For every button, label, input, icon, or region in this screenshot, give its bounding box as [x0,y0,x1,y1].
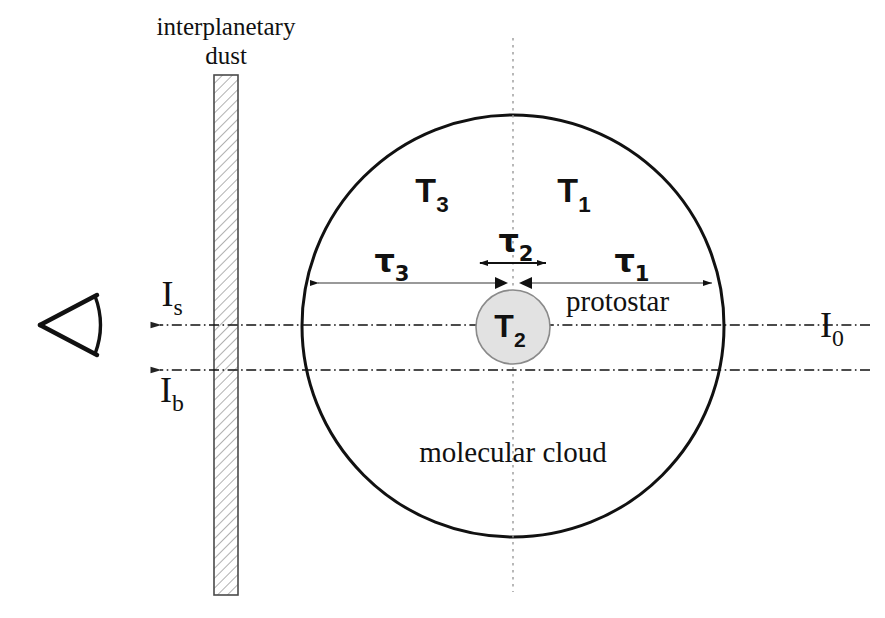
optical-depth-label-tau1: τ1 [614,242,649,286]
optical-depth-tau2-subscript: 2 [519,241,534,266]
optical-depth-tau1-subscript: 1 [635,261,650,286]
intensity-label-ib: Ib [160,370,184,416]
interplanetary-dust-label-line2: dust [205,42,247,69]
temperature-t2-base: T [494,308,514,344]
intensity-label-is: Is [161,274,182,320]
intensity-label-i0: I0 [820,305,844,351]
astronomy-diagram: interplanetary dust molecular cloud prot… [0,0,885,618]
temperature-t1-subscript: 1 [578,192,590,217]
intensity-is-base: I [161,274,173,314]
temperature-t3-subscript: 3 [436,192,448,217]
optical-depth-label-tau2: τ2 [498,222,533,266]
figure-canvas: interplanetary dust molecular cloud prot… [0,0,885,618]
intensity-i0-base: I [820,305,832,345]
molecular-cloud-label: molecular cloud [419,436,607,468]
temperature-label-t3: T3 [415,171,448,217]
optical-depth-tau1-base: τ [614,242,634,280]
temperature-t1-base: T [557,171,578,209]
tau-3-measure-line [318,277,508,289]
intensity-ib-subscript: b [172,390,184,416]
optical-depth-label-tau3: τ3 [374,242,409,286]
intensity-i0-subscript: 0 [832,325,844,351]
interplanetary-dust-label-line1: interplanetary [157,13,296,40]
interplanetary-dust-slab [214,75,238,595]
eye-icon [40,295,101,355]
temperature-label-t1: T1 [557,171,590,217]
intensity-ib-base: I [160,370,172,410]
intensity-is-subscript: s [173,294,182,320]
optical-depth-tau2-base: τ [498,222,518,260]
optical-depth-tau3-base: τ [374,242,394,280]
temperature-t2-subscript: 2 [514,328,526,351]
protostar-label: protostar [566,285,669,317]
optical-depth-tau3-subscript: 3 [395,261,410,286]
temperature-t3-base: T [415,171,436,209]
